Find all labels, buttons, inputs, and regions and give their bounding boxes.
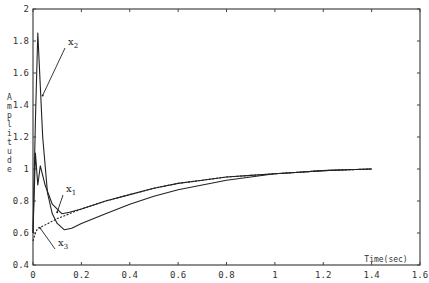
series-x3 (33, 169, 372, 241)
y-tick-label: 2 (24, 4, 29, 14)
series-x2 (33, 33, 372, 233)
series-x1 (33, 153, 372, 233)
y-tick-label: 1.8 (13, 36, 29, 46)
y-tick-label: 1.2 (13, 132, 29, 142)
annotation-pointer-x1 (57, 195, 63, 212)
data-series (33, 33, 372, 241)
x-tick-label: 1.2 (315, 270, 331, 280)
x-tick-label: 1 (272, 270, 277, 280)
y-tick-label: 1.4 (13, 100, 29, 110)
plot-frame (33, 9, 420, 265)
y-tick-label: 1 (24, 164, 29, 174)
pointer-dot (42, 94, 44, 96)
annotation-pointer-x2 (43, 48, 65, 95)
x-tick-label: 0 (30, 270, 35, 280)
plot-border (33, 9, 420, 265)
annotation-label-x3: x3 (58, 237, 68, 251)
x-axis-label: Time(sec) (364, 255, 407, 264)
annotation-label-x2: x2 (68, 36, 78, 50)
y-tick-label: 0.8 (13, 196, 29, 206)
y-tick-label: 1.6 (13, 68, 29, 78)
curve-annotations: x2x1x3 (39, 36, 78, 251)
pointer-dot (39, 227, 41, 229)
step-response-chart: 00.20.40.60.811.21.41.60.40.60.811.21.41… (0, 0, 429, 283)
pointer-dot (56, 211, 58, 213)
y-axis-label: Amplitude (7, 93, 12, 174)
x-tick-label: 0.8 (218, 270, 234, 280)
x-tick-label: 1.4 (363, 270, 379, 280)
y-tick-label: 0.4 (13, 260, 29, 270)
x-tick-label: 0.2 (73, 270, 89, 280)
x-tick-label: 0.6 (170, 270, 186, 280)
y-tick-label: 0.6 (13, 228, 29, 238)
x-tick-label: 1.6 (412, 270, 428, 280)
annotation-label-x1: x1 (66, 183, 76, 197)
x-tick-label: 0.4 (122, 270, 138, 280)
annotation-pointer-x3 (40, 228, 55, 249)
